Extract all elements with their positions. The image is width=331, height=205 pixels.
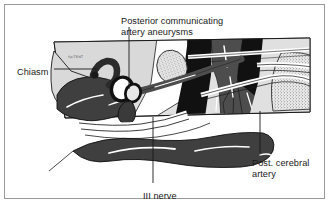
figure-frame: TA/TENT Posterior communicating artery a… [4, 4, 325, 199]
artist-micro-text: TA/TENT [68, 55, 83, 59]
figure-page: TA/TENT Posterior communicating artery a… [0, 0, 331, 205]
label-third-nerve: III nerve [143, 191, 177, 202]
label-posterior-cerebral-artery: Post. cerebral artery [252, 158, 309, 180]
label-chiasm: Chiasm [17, 67, 48, 78]
figure-title: Posterior communicating artery aneurysms [121, 16, 223, 38]
